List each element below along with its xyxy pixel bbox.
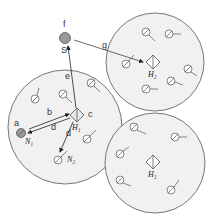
label-a: a [14,118,19,128]
node-n1-label: N₁ [24,137,33,146]
label-e: e [65,71,70,81]
label-d-down: d [66,128,71,138]
node-n2-label: N₂ [66,155,75,164]
label-c: c [88,109,93,119]
label-d-left: d [51,122,56,132]
source-node [60,33,71,44]
label-f: f [63,19,66,29]
label-S: S [61,45,67,55]
label-g: g [102,40,107,50]
hub-h2-label: H₂ [147,70,157,79]
diagram-canvas: H₁ H₂ H₃ f S N₁ a N₂ b c d d e g [0,0,214,221]
hub-h3-label: H₃ [147,170,157,179]
hub-h1-label: H₁ [71,123,81,132]
label-b: b [47,107,52,117]
